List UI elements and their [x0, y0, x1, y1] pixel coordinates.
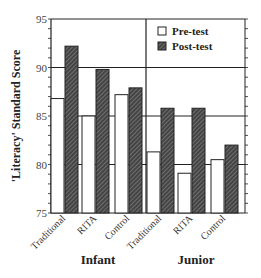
- bar-post-test: [65, 46, 78, 213]
- category-label: Traditional: [124, 212, 163, 251]
- category-label: RITA: [75, 212, 99, 236]
- legend-swatch: [158, 27, 166, 35]
- category-label: RITA: [171, 212, 195, 236]
- bar-pre-test: [51, 99, 64, 213]
- bar-post-test: [225, 145, 238, 213]
- y-tick-label: 90: [36, 62, 48, 74]
- category-label: Control: [198, 212, 228, 242]
- bar-chart: 7580859095TraditionalRITAControlInfantTr…: [0, 0, 261, 278]
- bar-pre-test: [211, 160, 224, 213]
- legend-label: Post-test: [172, 40, 213, 52]
- y-tick-label: 75: [36, 207, 48, 219]
- bar-post-test: [192, 108, 205, 213]
- bar-pre-test: [178, 173, 191, 213]
- y-tick-label: 85: [36, 110, 48, 122]
- group-label: Junior: [178, 252, 215, 267]
- category-label: Traditional: [28, 212, 67, 251]
- y-tick-label: 80: [36, 159, 48, 171]
- bar-pre-test: [82, 116, 95, 213]
- legend-swatch: [158, 42, 166, 50]
- bar-pre-test: [147, 152, 160, 213]
- y-axis-label: 'Literacy' Standard Score: [9, 49, 23, 182]
- legend-label: Pre-test: [172, 25, 209, 37]
- bar-pre-test: [115, 95, 128, 213]
- bar-post-test: [129, 88, 142, 213]
- category-label: Control: [102, 212, 132, 242]
- bar-post-test: [96, 69, 109, 213]
- group-label: Infant: [81, 252, 116, 267]
- bar-post-test: [161, 108, 174, 213]
- y-tick-label: 95: [36, 13, 48, 25]
